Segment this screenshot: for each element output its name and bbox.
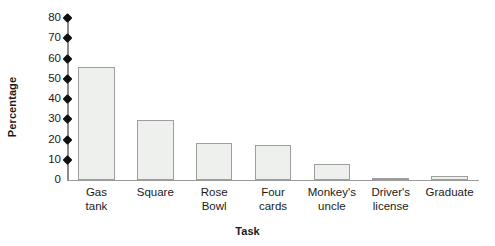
y-axis-tick-label: 80	[31, 12, 61, 24]
x-axis-tick-label: Graduate	[420, 186, 479, 200]
x-axis-tick-label: Rose Bowl	[185, 186, 244, 213]
bar	[196, 143, 232, 180]
bars-layer	[67, 18, 479, 180]
y-axis-tick-label: 60	[31, 53, 61, 65]
x-axis-tick-label: Square	[126, 186, 185, 200]
x-axis-tick-label: Monkey's uncle	[302, 186, 361, 213]
y-axis-title: Percentage	[6, 52, 24, 162]
y-axis-tick-label: 10	[31, 154, 61, 166]
bar	[255, 145, 291, 180]
y-axis-tick-label: 40	[31, 93, 61, 105]
y-axis-tick-label: 30	[31, 114, 61, 126]
bar	[314, 164, 350, 180]
x-axis-title: Task	[0, 225, 495, 237]
x-axis-tick-label: Gas tank	[67, 186, 126, 213]
bar	[78, 67, 114, 180]
y-axis-tick-labels: 80706050403020100	[31, 18, 61, 180]
y-axis-tick-label: 20	[31, 134, 61, 146]
x-axis-tick-labels: Gas tankSquareRose BowlFour cardsMonkey'…	[67, 186, 479, 222]
x-axis-tick-label: Four cards	[244, 186, 303, 213]
x-axis-line	[67, 180, 479, 181]
x-axis-tick-label: Driver's license	[361, 186, 420, 213]
y-axis-tick-label: 70	[31, 33, 61, 45]
y-axis-tick-label: 0	[31, 174, 61, 186]
bar-chart-figure: Percentage 80706050403020100 Gas tankSqu…	[0, 0, 495, 246]
y-axis-tick-label: 50	[31, 73, 61, 85]
bar	[137, 120, 173, 180]
